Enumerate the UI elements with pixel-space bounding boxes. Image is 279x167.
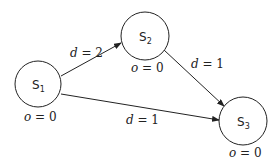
node-annotation-s1: o = 0 — [24, 110, 57, 124]
graph-diagram: d = 2 d = 1 d = 1 S1 S2 S3 o = 0 o = 0 o… — [0, 0, 279, 167]
edge-label-s2-s3: d = 1 — [191, 57, 224, 71]
node-s1: S1 — [15, 61, 61, 107]
node-s3: S3 — [219, 97, 267, 145]
node-annotation-s3: o = 0 — [229, 146, 262, 160]
edge-label-s1-s2: d = 2 — [70, 46, 103, 60]
node-s2: S2 — [121, 12, 169, 60]
node-annotation-s2: o = 0 — [131, 61, 164, 75]
edge-label-s1-s3: d = 1 — [126, 113, 159, 127]
